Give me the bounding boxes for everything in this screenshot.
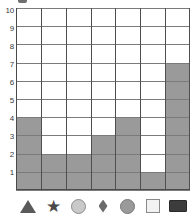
- circle-gray-icon: [120, 199, 135, 214]
- gridline-h-10: [16, 8, 190, 9]
- clipped-top-glyph: [18, 0, 27, 3]
- y-tick-label-9: 9: [0, 25, 14, 33]
- y-tick-label-4: 4: [0, 115, 14, 123]
- plot-area: [16, 8, 190, 190]
- gridline-h-7: [16, 63, 190, 64]
- x-axis-icon-cell-1: [16, 193, 41, 219]
- y-tick-label-1: 1: [0, 169, 14, 177]
- gridline-v-3: [91, 8, 92, 190]
- gridline-v-4: [115, 8, 116, 190]
- square-white-icon: [146, 199, 160, 213]
- gridline-h-8: [16, 44, 190, 45]
- gridline-v-1: [41, 8, 42, 190]
- x-axis-icon-cell-6: [140, 193, 165, 219]
- x-axis-icon-cell-2: ★: [41, 193, 66, 219]
- gridline-h-9: [16, 26, 190, 27]
- triangle-icon: [20, 200, 36, 213]
- y-tick-label-3: 3: [0, 133, 14, 141]
- gridline-h-2: [16, 154, 190, 155]
- star-icon: ★: [46, 198, 61, 215]
- diamond-icon: [99, 200, 108, 213]
- bar-square-white: [140, 172, 165, 190]
- gridline-h-0: [16, 190, 190, 191]
- gridline-v-6: [165, 8, 166, 190]
- y-axis-labels: 10 9 8 7 6 5 4 3 2 1: [0, 7, 15, 187]
- circle-light-icon: [71, 199, 86, 214]
- gridline-h-6: [16, 81, 190, 82]
- y-tick-label-2: 2: [0, 151, 14, 159]
- y-tick-label-10: 10: [0, 7, 14, 15]
- x-axis-icons: ★: [16, 193, 190, 219]
- bar-diamond: [91, 135, 116, 190]
- gridline-v-5: [140, 8, 141, 190]
- gridline-v-2: [66, 8, 67, 190]
- x-axis-icon-cell-5: [115, 193, 140, 219]
- gridline-h-5: [16, 99, 190, 100]
- rect-dark-icon: [169, 200, 187, 212]
- y-tick-label-7: 7: [0, 61, 14, 69]
- gridline-h-3: [16, 135, 190, 136]
- y-axis-line: [16, 8, 17, 190]
- pictograph-bar-chart: 10 9 8 7 6 5 4 3 2 1 ★: [0, 0, 196, 220]
- y-tick-label-5: 5: [0, 97, 14, 105]
- gridline-v-7: [189, 8, 190, 190]
- y-tick-label-8: 8: [0, 43, 14, 51]
- x-axis-line: [16, 189, 190, 190]
- gridline-h-4: [16, 117, 190, 118]
- gridline-h-1: [16, 172, 190, 173]
- x-axis-icon-cell-3: [66, 193, 91, 219]
- x-axis-icon-cell-4: [91, 193, 116, 219]
- y-tick-label-6: 6: [0, 79, 14, 87]
- x-axis-icon-cell-7: [165, 193, 190, 219]
